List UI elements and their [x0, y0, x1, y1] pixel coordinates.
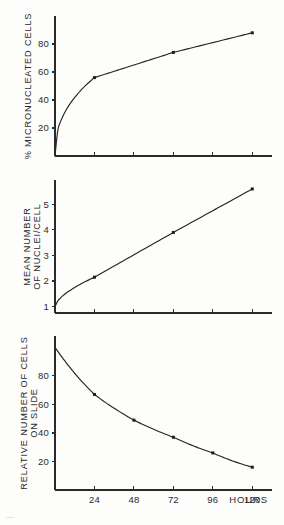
data-point-marker [93, 393, 96, 396]
y-tick-label-bottom: 60 [38, 399, 49, 410]
y-axis-title-bottom: ON SLIDE [29, 388, 39, 438]
y-tick-label-middle: 1 [44, 301, 49, 312]
panel-bottom: 2040608024487296120RELATIVE NUMBER OF CE… [19, 336, 272, 505]
panel-middle: 12345MEAN NUMBEROF NUCLEI/CELL [22, 180, 272, 313]
y-tick-label-middle: 3 [44, 250, 49, 261]
y-tick-label-bottom: 80 [38, 370, 49, 381]
y-tick-label-top: 80 [38, 38, 49, 49]
data-point-marker [93, 76, 96, 79]
y-tick-label-middle: 4 [44, 224, 49, 235]
y-axis-title-middle: OF NUCLEI/CELL [32, 203, 42, 289]
y-tick-label-top: 20 [38, 122, 49, 133]
x-tick-label: 72 [168, 494, 179, 505]
data-curve-bottom [55, 347, 252, 467]
cropped-caption-text: — [6, 516, 14, 521]
y-tick-label-top: 60 [38, 66, 49, 77]
y-axis-title-bottom: RELATIVE NUMBER OF CELLS [19, 336, 29, 489]
cropped-caption: — [0, 516, 284, 525]
data-point-marker [251, 466, 254, 469]
data-point-marker [211, 451, 214, 454]
x-axis-title: HOURS [229, 494, 268, 505]
data-point-marker [132, 419, 135, 422]
data-point-marker [251, 31, 254, 34]
three-panel-figure: 20406080% MICRONUCLEATED CELLS12345MEAN … [0, 0, 284, 525]
x-tick-label: 96 [207, 494, 218, 505]
y-tick-label-bottom: 40 [38, 427, 49, 438]
data-point-marker [251, 187, 254, 190]
y-tick-label-middle: 5 [44, 199, 49, 210]
y-tick-label-top: 40 [38, 94, 49, 105]
y-tick-label-middle: 2 [44, 275, 49, 286]
y-axis-title-top: % MICRONUCLEATED CELLS [23, 13, 33, 160]
x-tick-label: 48 [128, 494, 139, 505]
data-curve-top [55, 33, 252, 156]
data-point-marker [172, 231, 175, 234]
y-axis-title-middle: MEAN NUMBER [22, 207, 32, 285]
panel-top: 20406080% MICRONUCLEATED CELLS [23, 13, 272, 160]
data-curve-middle [55, 189, 252, 307]
data-point-marker [93, 276, 96, 279]
data-point-marker [172, 51, 175, 54]
data-point-marker [172, 436, 175, 439]
x-tick-label: 24 [89, 494, 100, 505]
y-tick-label-bottom: 20 [38, 456, 49, 467]
